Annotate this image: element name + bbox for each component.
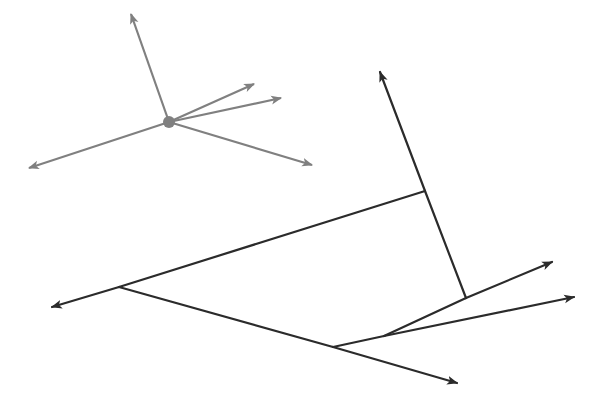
shared-edge [333, 336, 384, 347]
star-center-node [163, 116, 175, 128]
diagram-svg [0, 0, 603, 407]
ray-lower-right-arrow [169, 122, 312, 165]
ray-upper-right-2-arrow [169, 98, 281, 122]
diagram-canvas [0, 0, 603, 407]
ray-left-arrow [29, 122, 169, 168]
top-arrow-edge [380, 72, 425, 191]
bottom-arrow-edge [333, 347, 457, 383]
ray-up-arrow [131, 14, 169, 122]
mid-edge [384, 298, 466, 336]
star-diagram [29, 14, 312, 168]
lower-branch-edge [119, 287, 333, 347]
left-arrow-edge [52, 287, 119, 307]
vertical-lower-edge [425, 191, 466, 298]
ray-upper-right-1-arrow [169, 84, 254, 122]
tree-diagram [52, 72, 574, 383]
trunk-edge [119, 191, 425, 287]
right-arrow-edge [384, 297, 574, 336]
upper-right-arrow-edge [466, 262, 552, 298]
